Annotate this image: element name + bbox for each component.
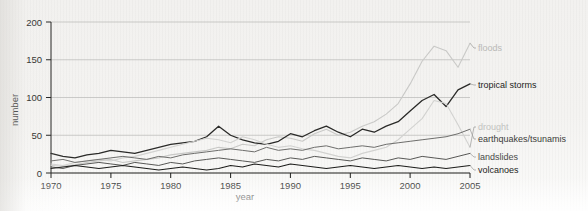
y-label-50: 50	[31, 130, 42, 141]
chart-page: 200 150 100 50 0 number 1970	[0, 0, 588, 211]
legend-label-floods[interactable]: floods	[478, 43, 503, 53]
series-line-earthquakes-tsunamis	[51, 129, 470, 162]
x-label-2005: 2005	[459, 180, 480, 191]
x-ticks	[51, 173, 470, 178]
legend-leader-floods	[470, 43, 476, 48]
x-label-1980: 1980	[160, 180, 181, 191]
chart-container: 200 150 100 50 0 number 1970	[0, 0, 588, 211]
legend-label-landslides[interactable]: landslides	[478, 152, 519, 162]
y-label-150: 150	[26, 54, 42, 65]
y-label-0: 0	[37, 168, 42, 179]
legend-leader-volcanoes	[470, 165, 476, 170]
gridlines	[51, 22, 470, 135]
y-label-100: 100	[26, 92, 42, 103]
legend-leader-landslides	[470, 153, 476, 157]
x-axis-title: year	[236, 191, 254, 202]
x-label-1990: 1990	[280, 180, 301, 191]
legend: floods tropical storms drought earthquak…	[478, 43, 567, 175]
line-chart-svg: 200 150 100 50 0 number 1970	[0, 0, 588, 211]
legend-label-tropical-storms[interactable]: tropical storms	[478, 80, 537, 90]
x-tick-labels: 1970 1975 1980 1985 1990 1995 2000 2005	[40, 180, 480, 191]
legend-leader-tropical-storms	[470, 84, 476, 85]
legend-label-earthquakes-tsunamis[interactable]: earthquakes/tsunamis	[478, 134, 567, 144]
x-label-2000: 2000	[400, 180, 421, 191]
series-line-volcanoes	[51, 164, 470, 170]
legend-leader-lines	[470, 43, 476, 170]
series-line-drought	[51, 101, 470, 166]
y-axis-title: number	[9, 94, 20, 126]
series-group	[51, 43, 470, 170]
y-ticks	[46, 22, 51, 173]
series-line-floods	[51, 43, 470, 166]
y-tick-labels: 200 150 100 50 0	[26, 17, 42, 179]
x-label-1970: 1970	[40, 180, 61, 191]
x-label-1995: 1995	[340, 180, 361, 191]
legend-label-drought[interactable]: drought	[478, 122, 509, 132]
x-label-1985: 1985	[220, 180, 241, 191]
y-label-200: 200	[26, 17, 42, 28]
series-line-tropical-storms	[51, 84, 470, 158]
legend-label-volcanoes[interactable]: volcanoes	[478, 165, 519, 175]
x-label-1975: 1975	[100, 180, 121, 191]
